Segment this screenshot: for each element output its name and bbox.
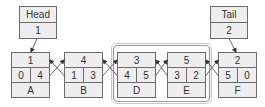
node-d: 3 4 5 D (118, 53, 156, 98)
head-label: Head (26, 9, 50, 20)
node-b: 4 1 3 B (65, 53, 103, 98)
node-prev: 4 (124, 70, 130, 81)
node-name: A (27, 85, 34, 96)
prev-arrow-icon (156, 60, 168, 76)
node-id: 3 (134, 55, 140, 66)
node-next: 5 (143, 70, 149, 81)
head-value: 1 (35, 25, 41, 36)
node-name: F (234, 85, 240, 96)
tail-arrow-icon (229, 39, 236, 53)
node-prev: 3 (174, 70, 180, 81)
tail-label: Tail (221, 9, 236, 20)
tail-value: 2 (226, 25, 232, 36)
node-next: 3 (90, 70, 96, 81)
node-id: 4 (81, 55, 87, 66)
node-next: 0 (244, 70, 250, 81)
node-next: 4 (37, 70, 43, 81)
node-prev: 5 (225, 70, 231, 81)
node-name: E (183, 85, 190, 96)
node-next: 2 (193, 70, 199, 81)
node-a: 1 0 4 A (12, 53, 50, 98)
node-id: 2 (235, 55, 241, 66)
node-name: D (133, 85, 140, 96)
tail-pointer: Tail 2 (211, 7, 248, 39)
node-prev: 0 (18, 70, 24, 81)
node-f: 2 5 0 F (219, 53, 257, 98)
next-arrow-icon (156, 60, 168, 76)
node-e: 5 3 2 E (168, 53, 206, 98)
node-id: 5 (184, 55, 190, 66)
node-prev: 1 (71, 70, 77, 81)
head-arrow-icon (31, 39, 37, 53)
head-pointer: Head 1 (20, 7, 57, 39)
linked-list-diagram: Head 1 Tail 2 1 0 4 A 4 1 3 B 3 4 (0, 0, 265, 107)
node-id: 1 (28, 55, 34, 66)
node-name: B (80, 85, 87, 96)
